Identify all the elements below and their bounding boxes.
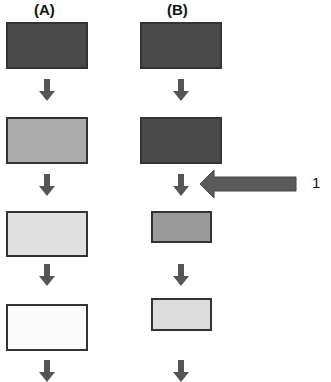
column-a-box-1 xyxy=(6,22,88,69)
left-arrow-icon xyxy=(200,170,298,198)
down-arrow-icon xyxy=(39,360,55,382)
column-b-box-4 xyxy=(151,298,212,331)
down-arrow-icon xyxy=(173,264,189,286)
column-b-label: (B) xyxy=(167,1,188,18)
column-a-box-4 xyxy=(6,304,88,351)
column-a-box-2 xyxy=(6,117,88,164)
column-b-box-3 xyxy=(151,211,212,243)
down-arrow-icon xyxy=(173,79,189,101)
down-arrow-icon xyxy=(173,174,189,196)
down-arrow-icon xyxy=(173,360,189,382)
down-arrow-icon xyxy=(39,174,55,196)
column-b-box-1 xyxy=(140,22,222,69)
annotation-label: 1 xyxy=(312,174,320,191)
down-arrow-icon xyxy=(39,264,55,286)
column-b-box-2 xyxy=(140,117,222,164)
down-arrow-icon xyxy=(39,79,55,101)
column-a-box-3 xyxy=(6,211,88,257)
column-a-label: (A) xyxy=(34,1,55,18)
